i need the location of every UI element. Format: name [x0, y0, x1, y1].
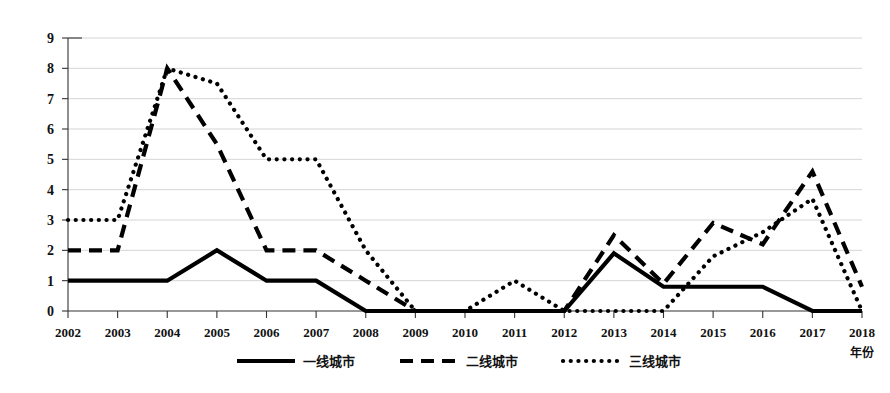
x-tick-label: 2009	[402, 325, 429, 340]
y-tick-label: 3	[47, 213, 54, 228]
x-tick-label: 2006	[254, 325, 281, 340]
x-tick-label: 2007	[303, 325, 330, 340]
x-tick-label: 2010	[452, 325, 478, 340]
legend-label-3: 三线城市	[629, 354, 681, 369]
x-tick-label: 2002	[55, 325, 81, 340]
x-tick-label: 2014	[651, 325, 678, 340]
x-tick-label: 2013	[601, 325, 628, 340]
x-tick-label: 2016	[750, 325, 777, 340]
y-tick-label: 6	[47, 122, 54, 137]
y-tick-label: 8	[47, 61, 54, 76]
x-tick-label: 2011	[502, 325, 527, 340]
y-tick-label: 5	[47, 152, 54, 167]
x-tick-label: 2003	[105, 325, 132, 340]
x-tick-label: 2015	[700, 325, 727, 340]
x-tick-label: 2008	[353, 325, 380, 340]
y-tick-label: 9	[47, 31, 54, 46]
y-tick-label: 4	[47, 183, 54, 198]
x-tick-label: 2004	[154, 325, 181, 340]
x-tick-label: 2017	[799, 325, 826, 340]
x-axis-title: 年份	[850, 345, 875, 360]
legend-label-2: 二线城市	[466, 354, 518, 369]
line-chart: 0123456789 20022003200420052006200720082…	[0, 0, 890, 393]
y-tick-label: 0	[47, 304, 54, 319]
y-tick-label: 2	[47, 243, 54, 258]
y-tick-label: 7	[47, 92, 54, 107]
x-tick-label: 2005	[204, 325, 231, 340]
legend-label-1: 一线城市	[303, 354, 355, 369]
x-tick-label: 2012	[551, 325, 577, 340]
x-tick-label: 2018	[849, 325, 876, 340]
y-tick-label: 1	[47, 274, 54, 289]
chart-container: 0123456789 20022003200420052006200720082…	[0, 0, 890, 393]
